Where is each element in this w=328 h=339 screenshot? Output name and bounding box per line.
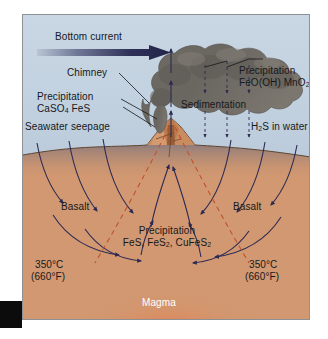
- label-seawater-seepage: Seawater seepage: [25, 121, 110, 133]
- label-chimney: Chimney: [67, 67, 107, 79]
- corner-black-bar: [0, 301, 22, 328]
- label-basalt-left: Basalt: [61, 201, 89, 213]
- label-precipitation-plume-1: Precipitation: [239, 65, 295, 77]
- label-precipitation-chimney-1: Precipitation: [37, 91, 93, 103]
- label-basalt-right: Basalt: [233, 201, 261, 213]
- label-temp-left-1: 350°C: [35, 259, 63, 271]
- bottom-current-arrow: [37, 45, 177, 61]
- label-sedimentation: Sedimentation: [181, 99, 246, 111]
- label-temp-left-2: (660°F): [31, 271, 65, 283]
- label-magma: Magma: [142, 297, 176, 309]
- diagram-plate: Bottom current Chimney Precipitation CaS…: [22, 14, 310, 320]
- label-h2s-in-water: H2S in water: [251, 121, 308, 135]
- label-temp-right-1: 350°C: [249, 259, 277, 271]
- label-precipitation-sub-2: FeS, FeS2, CuFeS2: [105, 237, 229, 251]
- label-precipitation-plume-2: FeO(OH) MnO2: [239, 77, 310, 91]
- label-bottom-current: Bottom current: [55, 31, 122, 43]
- label-precipitation-chimney-2: CaSO4 FeS: [37, 103, 90, 117]
- label-precipitation-sub-1: Precipitation: [117, 225, 217, 237]
- figure-canvas: Bottom current Chimney Precipitation CaS…: [0, 0, 328, 339]
- label-temp-right-2: (660°F): [245, 271, 279, 283]
